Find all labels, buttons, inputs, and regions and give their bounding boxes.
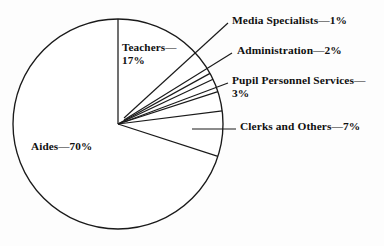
slice-label-teachers: Teachers— 17% <box>122 41 177 66</box>
slice-label-administration: Administration—2% <box>237 44 342 57</box>
pie-chart: Media Specialists—1% Administration—2% P… <box>0 0 384 246</box>
slice-label-aides: Aides—70% <box>31 140 92 153</box>
slice-label-pupil-personnel-services: Pupil Personnel Services— 3% <box>232 74 365 100</box>
slice-label-media-specialists: Media Specialists—1% <box>232 14 347 27</box>
slice-label-clerks-and-others: Clerks and Others—7% <box>240 120 360 133</box>
